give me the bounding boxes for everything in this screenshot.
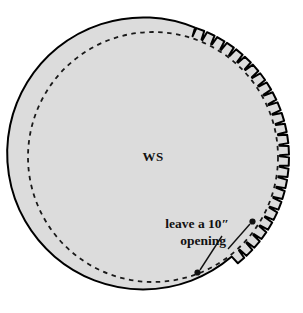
diagram-canvas: WS leave a 10″ opening — [0, 0, 303, 313]
opening-note-line1: leave a 10″ — [165, 216, 229, 231]
wrong-side-label: WS — [142, 149, 163, 164]
sewing-pattern-svg: WS leave a 10″ opening — [0, 0, 303, 313]
